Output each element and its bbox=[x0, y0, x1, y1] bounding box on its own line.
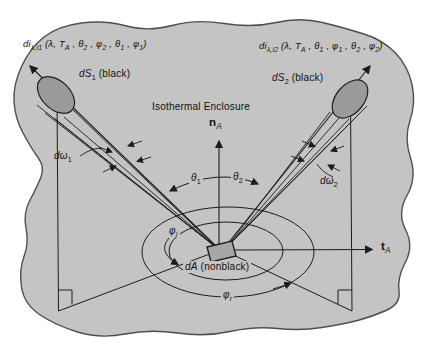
enclosure-label: Isothermal Enclosure bbox=[152, 101, 250, 113]
theta2-label: θ2 bbox=[231, 171, 245, 183]
theta1-label: θ1 bbox=[189, 172, 203, 184]
phi-r-label: φr bbox=[221, 289, 234, 301]
ds2-label: dS2 (black) bbox=[272, 72, 323, 84]
diagram-stage: diλ,i1 (λ, TA , θ2 , φ2 , θ1 , φ1) diλ,i… bbox=[0, 0, 430, 355]
da-label: dA (nonblack) bbox=[183, 261, 251, 273]
figure-canvas bbox=[0, 0, 430, 355]
tangent-axis-arrow bbox=[235, 250, 372, 251]
ds1-label: dS1 (black) bbox=[79, 68, 130, 80]
intensity-label-1: diλ,i1 (λ, TA , θ2 , φ2 , θ1 , φ1) bbox=[23, 39, 147, 50]
domega1-label: dω1 bbox=[54, 150, 72, 162]
normal-vector-label: nA bbox=[209, 116, 222, 129]
tangent-vector-label: tA bbox=[381, 240, 391, 253]
intensity-label-2: diλ,i2 (λ, TA , θ1 , φ1 , θ2 , φ2) bbox=[259, 41, 383, 52]
phi-i-label: φi bbox=[167, 225, 180, 237]
domega2-label: dω2 bbox=[320, 175, 338, 187]
